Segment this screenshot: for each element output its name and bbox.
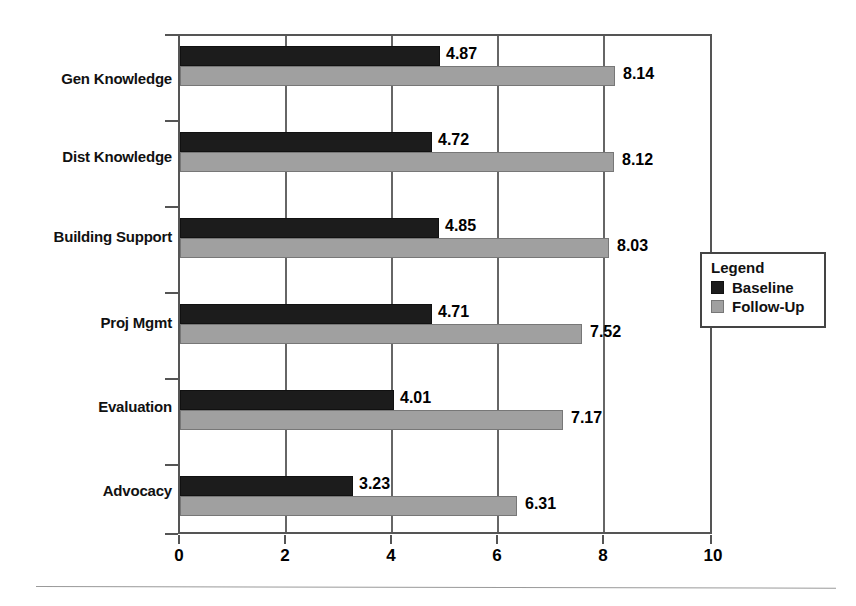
value-label-baseline-dist-knowledge: 4.72 [438, 130, 469, 150]
bar-followup-gen-knowledge[interactable] [180, 66, 615, 86]
value-label-followup-proj-mgmt: 7.52 [590, 322, 621, 342]
value-label-followup-dist-knowledge: 8.12 [622, 150, 653, 170]
x-tick-8 [602, 535, 604, 544]
legend-item-baseline[interactable]: Baseline [711, 278, 824, 297]
y-tick-6 [165, 533, 178, 535]
x-tick-0 [178, 535, 180, 544]
plot-area [178, 34, 712, 534]
gridline-2 [285, 36, 287, 532]
y-tick-4 [165, 378, 178, 380]
x-tick-10 [710, 535, 712, 544]
legend-swatch-followup-icon [711, 300, 724, 313]
footer-divider [36, 586, 836, 589]
bar-chart-figure: Gen Knowledge Dist Knowledge Building Su… [0, 0, 856, 606]
bar-followup-proj-mgmt[interactable] [180, 324, 582, 344]
x-tick-2 [284, 535, 286, 544]
bar-followup-dist-knowledge[interactable] [180, 152, 614, 172]
x-tick-4 [390, 535, 392, 544]
legend-swatch-baseline-icon [711, 281, 724, 294]
category-label-dist-knowledge: Dist Knowledge [62, 148, 172, 165]
legend-label-baseline: Baseline [732, 278, 794, 297]
category-label-advocacy: Advocacy [103, 482, 172, 499]
legend-title: Legend [711, 259, 824, 277]
x-tick-label-0: 0 [174, 546, 183, 566]
x-tick-label-2: 2 [280, 546, 289, 566]
value-label-baseline-advocacy: 3.23 [359, 474, 390, 494]
gridline-6 [497, 36, 499, 532]
y-tick-2 [165, 206, 178, 208]
bar-baseline-proj-mgmt[interactable] [180, 304, 432, 324]
bar-followup-building-support[interactable] [180, 238, 609, 258]
value-label-baseline-evaluation: 4.01 [400, 388, 431, 408]
y-tick-3 [165, 292, 178, 294]
category-label-evaluation: Evaluation [98, 398, 172, 415]
legend-label-followup: Follow-Up [732, 297, 804, 316]
bar-baseline-building-support[interactable] [180, 218, 439, 238]
bar-followup-advocacy[interactable] [180, 496, 517, 516]
bar-baseline-evaluation[interactable] [180, 390, 394, 410]
value-label-baseline-building-support: 4.85 [445, 216, 476, 236]
x-tick-label-6: 6 [492, 546, 501, 566]
category-label-proj-mgmt: Proj Mgmt [100, 314, 172, 331]
x-tick-label-4: 4 [386, 546, 395, 566]
value-label-followup-gen-knowledge: 8.14 [623, 64, 654, 84]
y-tick-0 [165, 34, 178, 36]
gridline-8 [603, 36, 605, 532]
bar-followup-evaluation[interactable] [180, 410, 563, 430]
value-label-followup-advocacy: 6.31 [525, 494, 556, 514]
category-label-gen-knowledge: Gen Knowledge [61, 70, 172, 87]
x-tick-label-10: 10 [704, 546, 723, 566]
value-label-baseline-gen-knowledge: 4.87 [446, 44, 477, 64]
gridline-4 [391, 36, 393, 532]
y-tick-5 [165, 464, 178, 466]
legend-item-followup[interactable]: Follow-Up [711, 297, 824, 316]
value-label-baseline-proj-mgmt: 4.71 [438, 302, 469, 322]
bar-baseline-advocacy[interactable] [180, 476, 353, 496]
y-tick-1 [165, 120, 178, 122]
category-label-building-support: Building Support [54, 228, 172, 245]
value-label-followup-evaluation: 7.17 [571, 408, 602, 428]
x-tick-6 [496, 535, 498, 544]
bar-baseline-dist-knowledge[interactable] [180, 132, 432, 152]
legend: Legend Baseline Follow-Up [700, 252, 826, 328]
value-label-followup-building-support: 8.03 [617, 236, 648, 256]
x-tick-label-8: 8 [598, 546, 607, 566]
bar-baseline-gen-knowledge[interactable] [180, 46, 440, 66]
